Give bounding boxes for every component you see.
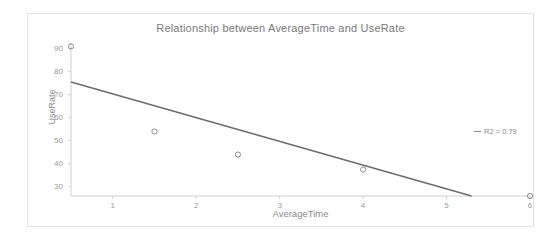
data-point-marker xyxy=(235,152,240,157)
legend-line-swatch xyxy=(474,131,481,132)
x-tick-label: 5 xyxy=(437,201,457,210)
y-tick-label: 80 xyxy=(41,67,63,76)
x-tick-label: 3 xyxy=(270,201,290,210)
plot-area: 30405060708090123456 xyxy=(71,44,530,196)
y-tick-label: 60 xyxy=(41,113,63,122)
y-tick-label: 90 xyxy=(41,44,63,53)
y-tick-label: 50 xyxy=(41,136,63,145)
x-tick-label: 2 xyxy=(186,201,206,210)
y-tick-label: 40 xyxy=(41,159,63,168)
plot-svg xyxy=(71,44,530,196)
y-axis-title: UseRate xyxy=(47,77,57,137)
legend-label-r2: R2 = 0.79 xyxy=(484,127,517,136)
x-tick-label: 4 xyxy=(353,201,373,210)
chart-frame: Relationship between AverageTime and Use… xyxy=(27,13,534,227)
y-tick-label: 70 xyxy=(41,90,63,99)
chart-title: Relationship between AverageTime and Use… xyxy=(28,22,533,34)
data-point-marker xyxy=(360,167,365,172)
x-tick-label: 6 xyxy=(520,201,540,210)
y-tick-label: 30 xyxy=(41,182,63,191)
x-axis-title: AverageTime xyxy=(71,208,530,219)
chart-legend: R2 = 0.79 xyxy=(474,127,517,136)
x-tick-label: 1 xyxy=(103,201,123,210)
data-point-marker xyxy=(152,129,157,134)
trend-line xyxy=(71,82,472,196)
